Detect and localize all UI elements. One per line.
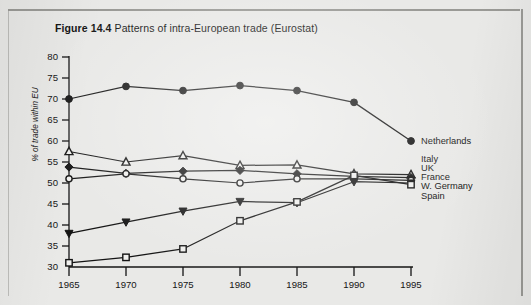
y-tick-label: 35 — [47, 240, 58, 251]
x-tick-label: 1965 — [58, 279, 79, 290]
x-axis-ticks: 1965197019751980198519901995 — [58, 267, 421, 290]
x-tick-label: 1995 — [400, 279, 421, 290]
data-point-marker — [294, 87, 301, 94]
y-axis-ticks: 3035404550556065707580 — [47, 51, 69, 272]
scanned-page: Figure 14.4 Patterns of intra-European t… — [0, 0, 531, 305]
y-tick-label: 80 — [47, 51, 58, 62]
series-labels: NetherlandsItalyUKFranceW. GermanySpain — [421, 136, 473, 200]
data-point-marker — [123, 83, 130, 90]
chart-area: % of trade within EU 3035404550556065707… — [0, 0, 531, 305]
y-tick-label: 40 — [47, 219, 58, 230]
y-tick-label: 60 — [47, 135, 58, 146]
data-point-marker — [66, 176, 72, 182]
data-point-marker — [294, 176, 300, 182]
series-w-germany — [65, 179, 415, 238]
data-point-marker — [179, 167, 187, 175]
data-point-marker — [66, 96, 73, 103]
y-tick-label: 45 — [47, 198, 58, 209]
y-tick-label: 30 — [47, 261, 58, 272]
y-tick-label: 75 — [47, 72, 58, 83]
data-point-marker — [180, 246, 186, 252]
data-point-marker — [123, 171, 129, 177]
data-point-marker — [66, 260, 72, 266]
y-tick-label: 70 — [47, 93, 58, 104]
data-point-marker — [123, 254, 129, 260]
data-point-marker — [408, 138, 415, 145]
y-tick-label: 50 — [47, 177, 58, 188]
data-point-marker — [180, 176, 186, 182]
series-netherlands — [66, 82, 415, 144]
data-point-marker — [237, 180, 243, 186]
y-tick-label: 65 — [47, 114, 58, 125]
x-tick-label: 1970 — [115, 279, 136, 290]
data-point-marker — [179, 152, 187, 159]
data-point-marker — [65, 163, 73, 171]
y-axis-label: % of trade within EU — [31, 70, 40, 180]
data-point-marker — [351, 172, 357, 178]
data-point-marker — [351, 99, 358, 106]
series-line — [69, 182, 411, 234]
series-label-spain: Spain — [421, 191, 445, 201]
series-label-netherlands: Netherlands — [421, 136, 471, 146]
line-chart: 3035404550556065707580196519701975198019… — [0, 0, 531, 305]
data-point-marker — [237, 218, 243, 224]
x-tick-label: 1975 — [172, 279, 193, 290]
data-point-marker — [408, 181, 414, 187]
series-line — [69, 86, 411, 141]
x-tick-label: 1985 — [286, 279, 307, 290]
data-point-marker — [237, 82, 244, 89]
data-point-marker — [65, 230, 73, 237]
data-point-marker — [180, 87, 187, 94]
x-tick-label: 1980 — [229, 279, 250, 290]
x-tick-label: 1990 — [343, 279, 364, 290]
y-tick-label: 55 — [47, 156, 58, 167]
data-point-marker — [294, 199, 300, 205]
data-point-marker — [65, 147, 73, 154]
